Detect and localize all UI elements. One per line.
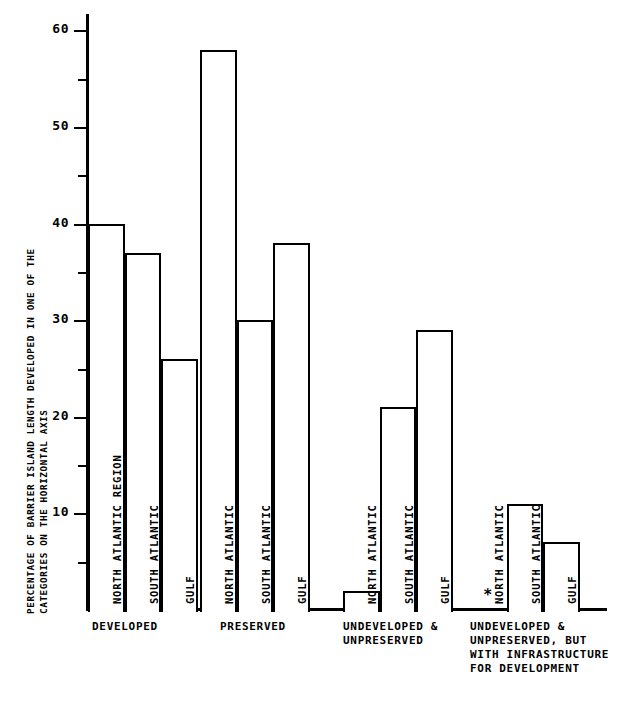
y-tick-label-50: 50 [29,118,69,133]
bar-label: NORTH ATLANTIC REGION [111,454,123,604]
y-tick-minor-55 [78,79,87,81]
bar-label: GULF [184,576,196,605]
y-tick-major-30 [74,320,87,322]
bar-label: NORTH ATLANTIC [366,504,378,604]
no-data-asterisk: * [483,588,492,603]
group-caption: DEVELOPED [92,620,158,634]
bar-label: SOUTH ATLANTIC [403,504,415,604]
y-tick-minor-45 [78,175,87,177]
bar-label: NORTH ATLANTIC [493,504,505,604]
y-tick-major-40 [74,224,87,226]
group-caption: UNDEVELOPED & UNPRESERVED, BUT WITH INFR… [470,620,609,676]
y-tick-label-40: 40 [29,215,69,230]
group-caption: PRESERVED [220,620,286,634]
y-axis-title-line-1: PERCENTAGE OF BARRIER ISLAND LENGTH DEVE… [24,248,37,614]
bar-label: SOUTH ATLANTIC [148,504,160,604]
y-tick-minor-35 [78,272,87,274]
y-tick-major-50 [74,127,87,129]
y-tick-label-30: 30 [29,311,69,326]
bar-label: GULF [439,576,451,605]
y-tick-major-10 [74,513,87,515]
y-tick-label-60: 60 [29,21,69,36]
y-tick-minor-15 [78,465,87,467]
y-tick-major-20 [74,417,87,419]
y-tick-minor-5 [78,562,87,564]
y-tick-minor-25 [78,369,87,371]
bar-label: GULF [566,576,578,605]
y-tick-label-20: 20 [29,408,69,423]
group-caption: UNDEVELOPED & UNPRESERVED [343,620,438,648]
bar [161,359,198,612]
bar [273,243,310,612]
bar-label: SOUTH ATLANTIC [260,504,272,604]
bar-chart: PERCENTAGE OF BARRIER ISLAND LENGTH DEVE… [0,0,642,701]
y-tick-label-10: 10 [29,504,69,519]
bar-label: NORTH ATLANTIC [223,504,235,604]
bar-label: SOUTH ATLANTIC [530,504,542,604]
y-tick-major-60 [74,30,87,32]
bar-label: GULF [296,576,308,605]
y-axis-title: PERCENTAGE OF BARRIER ISLAND LENGTH DEVE… [0,0,60,620]
bar [416,330,453,612]
